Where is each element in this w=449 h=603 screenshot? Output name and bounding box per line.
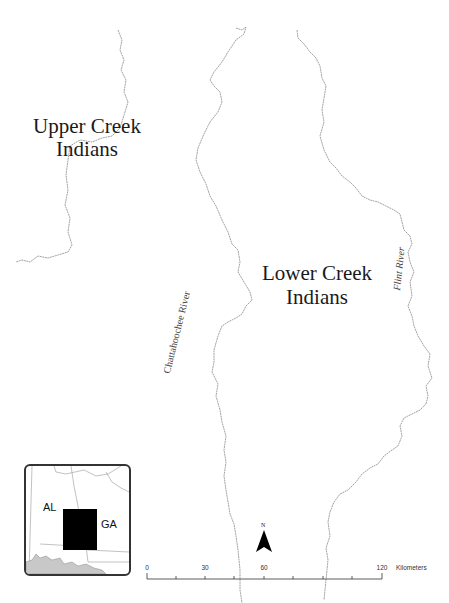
upper-label-line1: Upper Creek bbox=[33, 114, 141, 138]
lower-label-line1: Lower Creek bbox=[262, 261, 372, 285]
flint-river-path bbox=[297, 30, 432, 600]
lower-label-line2: Indians bbox=[252, 287, 382, 308]
study-area-box bbox=[63, 509, 97, 550]
scale-tick-60: 60 bbox=[260, 564, 267, 571]
lower-creek-indians-label: Lower Creek Indians bbox=[252, 263, 382, 308]
chattahoochee-river-path bbox=[196, 27, 252, 603]
scale-units-label: Kilometers bbox=[396, 564, 427, 571]
gulf-water bbox=[26, 554, 106, 574]
upper-creek-indians-label: Upper Creek Indians bbox=[22, 116, 152, 160]
inset-label-al: AL bbox=[43, 501, 56, 513]
scale-tick-0: 0 bbox=[145, 564, 149, 571]
north-arrow-icon bbox=[256, 530, 272, 552]
scale-tick-30: 30 bbox=[201, 564, 208, 571]
inset-label-ga: GA bbox=[101, 518, 117, 530]
inset-locator-map: AL GA bbox=[24, 464, 131, 576]
north-arrow-label: N bbox=[261, 522, 265, 528]
upper-label-line2: Indians bbox=[22, 139, 152, 160]
scale-tick-120: 120 bbox=[377, 564, 388, 571]
